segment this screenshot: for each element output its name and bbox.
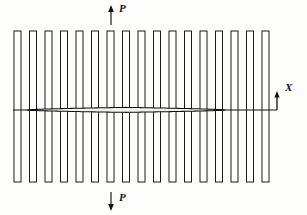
vertical-bar <box>231 31 238 182</box>
vertical-bar <box>61 31 68 182</box>
arrow-head-up-icon <box>108 5 114 12</box>
vertical-bar-array <box>14 31 269 182</box>
vertical-bar <box>138 31 145 182</box>
vertical-bar <box>247 31 254 182</box>
force-label-top: P <box>119 3 126 14</box>
arrow-head-up-icon <box>274 91 279 98</box>
vertical-bar <box>45 31 52 182</box>
vertical-bar <box>92 31 99 182</box>
force-arrow-bottom <box>108 192 114 211</box>
vertical-bar <box>200 31 207 182</box>
figure-container: P P X <box>0 0 307 215</box>
vertical-bar <box>169 31 176 182</box>
force-arrow-top <box>108 5 114 25</box>
vertical-bar <box>76 31 83 182</box>
arrow-head-down-icon <box>108 204 114 211</box>
vertical-bar <box>30 31 37 182</box>
vertical-bar <box>107 31 114 182</box>
axis-label-x: X <box>285 82 292 93</box>
vertical-bar <box>216 31 223 182</box>
vertical-bar <box>123 31 130 182</box>
vertical-bar <box>154 31 161 182</box>
vertical-bar <box>185 31 192 182</box>
vertical-bar <box>262 31 269 182</box>
airfoil-shape <box>27 107 225 112</box>
airfoil-grid-diagram <box>0 0 307 215</box>
axis-direction-marker <box>274 91 279 110</box>
force-label-bottom: P <box>119 192 126 203</box>
vertical-bar <box>14 31 21 182</box>
